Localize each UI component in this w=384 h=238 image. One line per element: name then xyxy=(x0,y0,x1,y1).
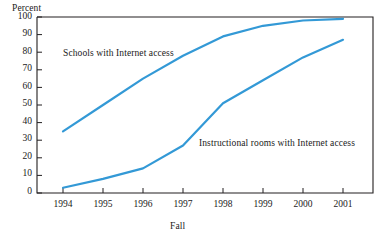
series-line-schools xyxy=(63,19,343,132)
series-line-rooms xyxy=(63,40,343,188)
axis-frame xyxy=(37,17,373,193)
x-axis-ticks xyxy=(63,188,343,193)
plot-area xyxy=(0,0,384,238)
y-axis-ticks xyxy=(37,17,42,193)
chart-figure: Percent Fall 100 90 80 70 60 50 40 30 20… xyxy=(0,0,384,238)
